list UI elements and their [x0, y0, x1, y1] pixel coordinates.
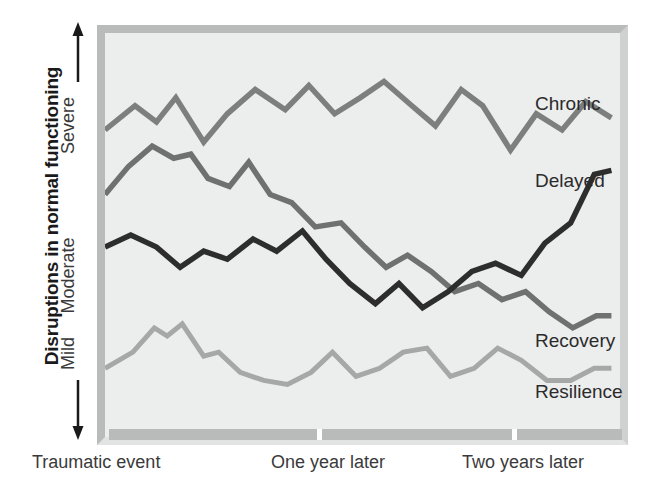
x-axis-segment-1	[109, 429, 317, 440]
y-tick-label-severe: Severe	[58, 76, 79, 176]
series-line-chronic	[105, 81, 611, 150]
series-label-chronic: Chronic	[535, 93, 600, 115]
x-tick-label-two-years-later: Two years later	[462, 452, 584, 473]
x-axis-segment-3	[517, 429, 622, 440]
chart-page: Disruptions in normal functioning Severe…	[0, 0, 664, 498]
x-axis-bar	[109, 429, 622, 440]
down-arrow-icon	[70, 380, 86, 444]
x-tick-label-traumatic-event: Traumatic event	[32, 452, 160, 473]
x-axis-segment-2	[322, 429, 512, 440]
series-label-delayed: Delayed	[535, 170, 605, 192]
series-label-resilience: Resilience	[535, 381, 623, 403]
x-tick-label-one-year-later: One year later	[271, 452, 385, 473]
series-label-recovery: Recovery	[535, 330, 615, 352]
